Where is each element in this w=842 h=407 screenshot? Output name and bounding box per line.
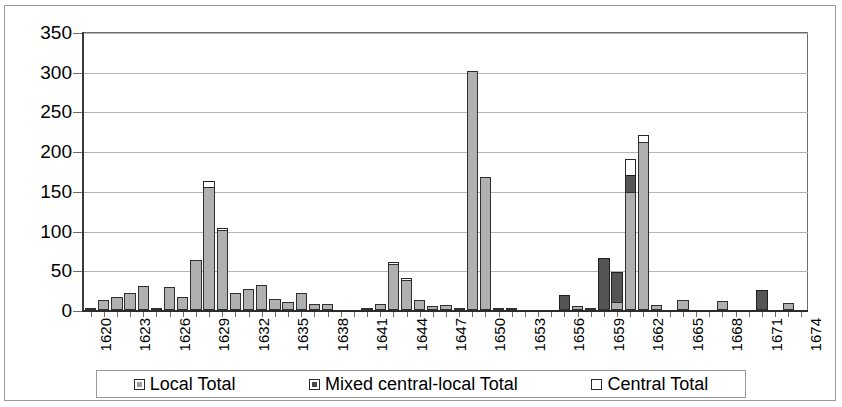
x-axis-tick (670, 312, 671, 317)
bar-segment-local (651, 305, 662, 310)
bar-segment-local (124, 293, 135, 310)
bar-segment-local (783, 303, 794, 310)
x-axis-tick (564, 312, 565, 317)
x-axis-tick-label: 1656 (570, 318, 587, 351)
x-axis-tick (235, 312, 236, 317)
x-axis-tick-label: 1644 (413, 318, 430, 351)
bar-segment-local (177, 297, 188, 311)
legend-item-local: Local Total (134, 374, 236, 395)
x-axis-tick-label: 1620 (97, 318, 114, 351)
y-axis-tick (73, 152, 82, 153)
bar-column (572, 306, 583, 310)
x-axis-tick-label: 1632 (255, 318, 272, 351)
bar-column (190, 260, 201, 310)
x-axis-tick (328, 312, 329, 317)
bar-segment-local (151, 308, 162, 310)
x-axis-tick (604, 312, 605, 317)
y-axis-tick-label: 100 (40, 221, 72, 243)
bar-column (756, 290, 767, 310)
bar-segment-local (230, 293, 241, 310)
x-axis-tick (130, 312, 131, 317)
x-axis-tick (736, 312, 737, 317)
bar-segment-mixed (625, 175, 636, 192)
bar-column (625, 159, 636, 310)
bar-segment-mixed (598, 258, 609, 310)
bar-segment-local (493, 308, 504, 310)
bar-column (138, 286, 149, 310)
x-axis-tick (683, 312, 684, 317)
chart-legend: Local Total Mixed central-local Total Ce… (96, 370, 746, 398)
y-axis-tick (73, 271, 82, 272)
bar-column (217, 228, 228, 310)
legend-item-central: Central Total (591, 374, 708, 395)
bar-column (243, 289, 254, 310)
x-axis-tick (407, 312, 408, 317)
y-axis-tick-label: 350 (40, 22, 72, 44)
bar-segment-local (401, 280, 412, 310)
x-axis-tick (209, 312, 210, 317)
x-axis-tick (380, 312, 381, 317)
bar-segment-local (164, 287, 175, 310)
x-axis-tick-label: 1641 (373, 318, 390, 351)
bar-column (296, 293, 307, 310)
bar-segment-local (480, 177, 491, 310)
bar-column (85, 308, 96, 310)
bar-segment-local (717, 301, 728, 310)
x-axis-tick (222, 312, 223, 317)
legend-swatch-mixed-icon (309, 379, 320, 390)
bar-segment-local (388, 264, 399, 310)
bar-segment-local (440, 305, 451, 310)
x-axis-tick (525, 312, 526, 317)
bar-column (361, 308, 372, 310)
bar-column (177, 297, 188, 311)
x-axis-tick (143, 312, 144, 317)
bar-segment-local (98, 300, 109, 310)
x-axis-tick (512, 312, 513, 317)
x-axis-tick (459, 312, 460, 317)
bar-column (427, 306, 438, 310)
x-axis-tick (722, 312, 723, 317)
bar-segment-mixed (559, 295, 570, 310)
legend-item-mixed: Mixed central-local Total (309, 374, 518, 395)
x-axis-tick (104, 312, 105, 317)
bar-column (493, 308, 504, 310)
x-axis-tick-label: 1674 (807, 318, 824, 351)
bar-segment-local (322, 304, 333, 310)
x-axis-tick (314, 312, 315, 317)
legend-label-central: Central Total (607, 374, 708, 395)
y-axis-tick (73, 112, 82, 113)
x-axis-tick (420, 312, 421, 317)
bar-column (598, 258, 609, 310)
legend-label-local: Local Total (150, 374, 236, 395)
bar-segment-mixed (756, 290, 767, 310)
bar-column (269, 299, 280, 310)
bar-column (401, 278, 412, 310)
bar-column (467, 71, 478, 310)
x-axis-tick (617, 312, 618, 317)
x-axis-tick (657, 312, 658, 317)
y-axis-tick-label: 300 (40, 62, 72, 84)
x-axis-tick (788, 312, 789, 317)
x-axis-tick (262, 312, 263, 317)
bar-segment-local (203, 187, 214, 310)
x-axis-tick (170, 312, 171, 317)
y-axis-tick (73, 311, 82, 312)
x-axis-tick (367, 312, 368, 317)
bar-segment-local (269, 299, 280, 310)
x-axis-tick (578, 312, 579, 317)
bar-segment-local (427, 306, 438, 310)
x-axis-tick (354, 312, 355, 317)
bar-segment-local (138, 286, 149, 310)
x-axis-tick (643, 312, 644, 317)
y-axis-tick-label: 150 (40, 181, 72, 203)
bar-column (585, 308, 596, 310)
bar-column (717, 301, 728, 310)
x-axis-tick-label: 1665 (689, 318, 706, 351)
bar-segment-local (85, 308, 96, 310)
bar-segment-local (467, 71, 478, 310)
bar-column (480, 177, 491, 310)
bar-segment-local (361, 308, 372, 310)
x-axis (82, 310, 808, 312)
bar-column (559, 295, 570, 310)
y-axis-tick-label: 50 (51, 260, 72, 282)
